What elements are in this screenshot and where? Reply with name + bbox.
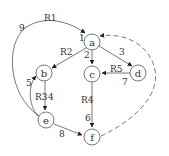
node-b: b bbox=[36, 65, 52, 81]
label-R5: R5 bbox=[110, 64, 123, 74]
svg-text:a: a bbox=[89, 37, 95, 48]
label-8: 8 bbox=[59, 129, 65, 139]
svg-text:d: d bbox=[135, 68, 142, 79]
label-2: 2 bbox=[84, 50, 90, 60]
label-R4: R4 bbox=[81, 95, 94, 105]
label-4: 4 bbox=[48, 92, 54, 102]
directed-graph-diagram: a b c d e f R1 9 1 R2 2 3 R5 7 5 R bbox=[0, 0, 169, 156]
svg-text:b: b bbox=[41, 68, 47, 79]
edge-a-to-d bbox=[99, 46, 132, 66]
label-R1: R1 bbox=[44, 13, 57, 23]
label-5: 5 bbox=[26, 78, 32, 88]
node-a: a bbox=[84, 34, 100, 50]
svg-text:c: c bbox=[89, 69, 95, 80]
node-c: c bbox=[84, 66, 100, 82]
label-1: 1 bbox=[79, 33, 85, 43]
label-6: 6 bbox=[85, 113, 91, 123]
edge-f-to-a-dashed bbox=[100, 35, 156, 136]
label-9: 9 bbox=[19, 23, 25, 33]
label-R3: R3 bbox=[35, 92, 48, 102]
label-R2: R2 bbox=[60, 47, 73, 57]
label-7: 7 bbox=[122, 77, 128, 87]
node-d: d bbox=[130, 65, 146, 81]
node-f: f bbox=[84, 129, 100, 145]
svg-text:e: e bbox=[43, 115, 49, 126]
label-3: 3 bbox=[119, 47, 125, 57]
node-e: e bbox=[38, 112, 54, 128]
